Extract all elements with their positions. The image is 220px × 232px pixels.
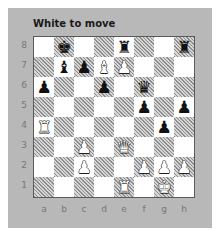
chess-board: ♚♜♜♝♟♝♟♟♟♛♟♟♜♟♟♛♟♟♟♟♜♚ xyxy=(33,36,195,198)
rank-label-4: 4 xyxy=(19,120,29,130)
white-pawn-icon[interactable]: ♟ xyxy=(134,157,154,177)
square-e8[interactable]: ♜ xyxy=(114,37,134,57)
square-b7[interactable]: ♝ xyxy=(54,57,74,77)
square-c3[interactable]: ♟ xyxy=(74,137,94,157)
square-g4[interactable]: ♟ xyxy=(154,117,174,137)
square-h2[interactable]: ♟ xyxy=(174,157,194,177)
white-pawn-icon[interactable]: ♟ xyxy=(114,57,134,77)
black-pawn-icon[interactable]: ♟ xyxy=(134,97,154,117)
rank-label-6: 6 xyxy=(19,80,29,90)
rank-label-5: 5 xyxy=(19,100,29,110)
square-d8[interactable] xyxy=(94,37,114,57)
rank-label-7: 7 xyxy=(19,60,29,70)
square-d6[interactable]: ♟ xyxy=(94,77,114,97)
square-c8[interactable] xyxy=(74,37,94,57)
square-e5[interactable] xyxy=(114,97,134,117)
square-h1[interactable] xyxy=(174,177,194,197)
square-c6[interactable] xyxy=(74,77,94,97)
file-label-b: b xyxy=(54,204,74,214)
square-c1[interactable] xyxy=(74,177,94,197)
square-c7[interactable]: ♟ xyxy=(74,57,94,77)
black-bishop-icon[interactable]: ♝ xyxy=(54,57,74,77)
square-f2[interactable]: ♟ xyxy=(134,157,154,177)
square-d1[interactable] xyxy=(94,177,114,197)
file-label-c: c xyxy=(74,204,94,214)
white-bishop-icon[interactable]: ♝ xyxy=(94,57,114,77)
black-king-icon[interactable]: ♚ xyxy=(54,37,74,57)
square-f8[interactable] xyxy=(134,37,154,57)
white-pawn-icon[interactable]: ♟ xyxy=(74,137,94,157)
square-f4[interactable] xyxy=(134,117,154,137)
square-h8[interactable]: ♜ xyxy=(174,37,194,57)
rank-label-8: 8 xyxy=(19,40,29,50)
file-label-f: f xyxy=(134,204,154,214)
rank-label-3: 3 xyxy=(19,140,29,150)
black-pawn-icon[interactable]: ♟ xyxy=(174,97,194,117)
square-a3[interactable] xyxy=(34,137,54,157)
square-a4[interactable]: ♜ xyxy=(34,117,54,137)
square-e2[interactable] xyxy=(114,157,134,177)
square-b1[interactable] xyxy=(54,177,74,197)
side-to-move-title: White to move xyxy=(33,18,115,29)
square-f6[interactable]: ♛ xyxy=(134,77,154,97)
square-c2[interactable]: ♟ xyxy=(74,157,94,177)
rank-label-2: 2 xyxy=(19,160,29,170)
square-e3[interactable]: ♛ xyxy=(114,137,134,157)
square-h5[interactable]: ♟ xyxy=(174,97,194,117)
square-d4[interactable] xyxy=(94,117,114,137)
white-rook-icon[interactable]: ♜ xyxy=(114,177,134,197)
square-d2[interactable] xyxy=(94,157,114,177)
square-b3[interactable] xyxy=(54,137,74,157)
square-b4[interactable] xyxy=(54,117,74,137)
white-pawn-icon[interactable]: ♟ xyxy=(154,157,174,177)
square-a8[interactable] xyxy=(34,37,54,57)
square-g2[interactable]: ♟ xyxy=(154,157,174,177)
black-pawn-icon[interactable]: ♟ xyxy=(74,57,94,77)
square-e7[interactable]: ♟ xyxy=(114,57,134,77)
square-g8[interactable] xyxy=(154,37,174,57)
black-rook-icon[interactable]: ♜ xyxy=(174,37,194,57)
file-label-e: e xyxy=(114,204,134,214)
file-label-a: a xyxy=(34,204,54,214)
square-h6[interactable] xyxy=(174,77,194,97)
square-a2[interactable] xyxy=(34,157,54,177)
black-pawn-icon[interactable]: ♟ xyxy=(94,77,114,97)
square-b8[interactable]: ♚ xyxy=(54,37,74,57)
black-pawn-icon[interactable]: ♟ xyxy=(154,117,174,137)
white-rook-icon[interactable]: ♜ xyxy=(34,117,54,137)
square-f5[interactable]: ♟ xyxy=(134,97,154,117)
white-queen-icon[interactable]: ♛ xyxy=(114,137,134,157)
square-h7[interactable] xyxy=(174,57,194,77)
square-c4[interactable] xyxy=(74,117,94,137)
square-g5[interactable] xyxy=(154,97,174,117)
square-c5[interactable] xyxy=(74,97,94,117)
square-d5[interactable] xyxy=(94,97,114,117)
square-d7[interactable]: ♝ xyxy=(94,57,114,77)
square-b2[interactable] xyxy=(54,157,74,177)
square-g6[interactable] xyxy=(154,77,174,97)
white-pawn-icon[interactable]: ♟ xyxy=(74,157,94,177)
square-b6[interactable] xyxy=(54,77,74,97)
square-g3[interactable] xyxy=(154,137,174,157)
square-f3[interactable] xyxy=(134,137,154,157)
square-e6[interactable] xyxy=(114,77,134,97)
square-a7[interactable] xyxy=(34,57,54,77)
square-a5[interactable] xyxy=(34,97,54,117)
square-h4[interactable] xyxy=(174,117,194,137)
black-queen-icon[interactable]: ♛ xyxy=(134,77,154,97)
white-king-icon[interactable]: ♚ xyxy=(154,177,174,197)
square-e4[interactable] xyxy=(114,117,134,137)
square-a6[interactable]: ♟ xyxy=(34,77,54,97)
black-pawn-icon[interactable]: ♟ xyxy=(34,77,54,97)
square-h3[interactable] xyxy=(174,137,194,157)
square-a1[interactable] xyxy=(34,177,54,197)
square-b5[interactable] xyxy=(54,97,74,117)
square-f1[interactable] xyxy=(134,177,154,197)
square-g7[interactable] xyxy=(154,57,174,77)
square-f7[interactable] xyxy=(134,57,154,77)
square-g1[interactable]: ♚ xyxy=(154,177,174,197)
white-pawn-icon[interactable]: ♟ xyxy=(174,157,194,177)
black-rook-icon[interactable]: ♜ xyxy=(114,37,134,57)
square-d3[interactable] xyxy=(94,137,114,157)
square-e1[interactable]: ♜ xyxy=(114,177,134,197)
